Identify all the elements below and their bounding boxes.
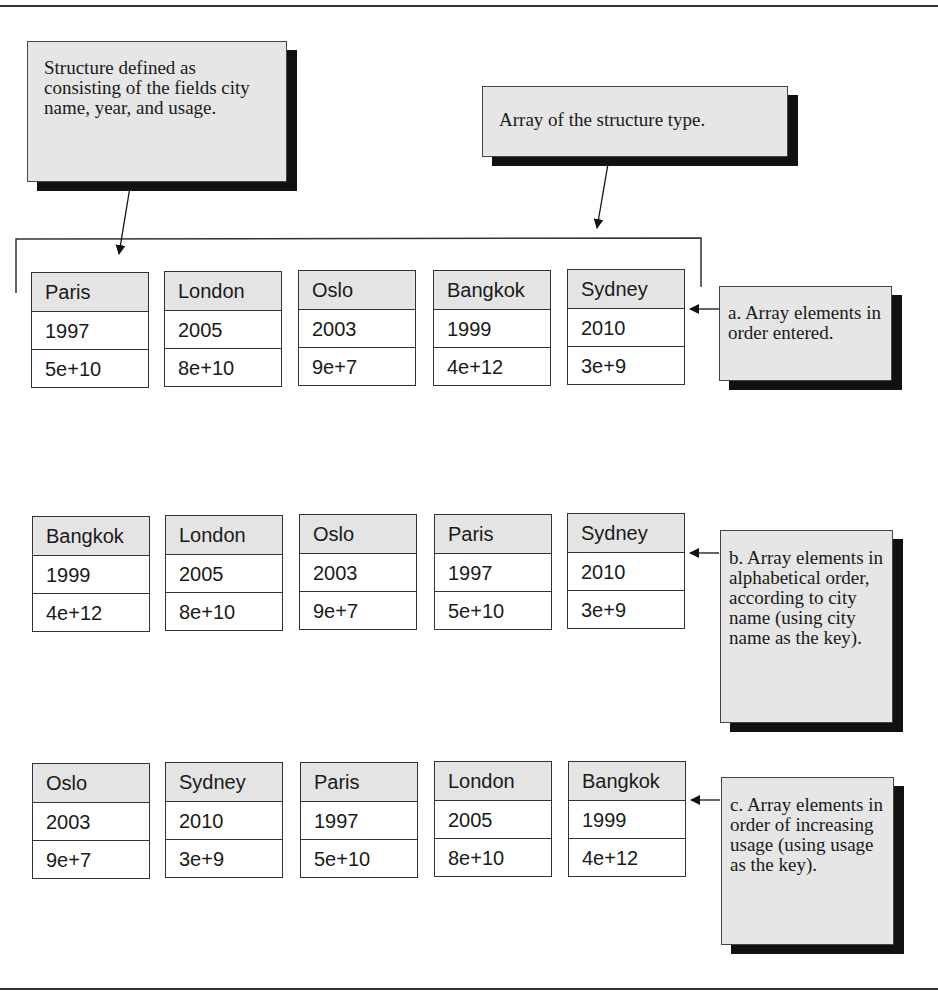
- year: 2005: [435, 800, 551, 838]
- year: 1999: [569, 800, 685, 838]
- year: 2010: [568, 552, 684, 590]
- year: 2010: [166, 801, 282, 839]
- record: Paris 1997 5e+10: [31, 272, 149, 388]
- city-name: Paris: [435, 515, 551, 553]
- usage: 5e+10: [301, 839, 417, 877]
- year: 2010: [568, 308, 684, 346]
- city-name: Bangkok: [569, 762, 685, 800]
- record: Paris 1997 5e+10: [434, 514, 552, 630]
- year: 1997: [435, 553, 551, 591]
- usage: 4e+12: [33, 593, 149, 631]
- record: London 2005 8e+10: [165, 515, 283, 631]
- city-name: Sydney: [166, 763, 282, 801]
- record: Bangkok 1999 4e+12: [568, 761, 686, 877]
- usage: 8e+10: [166, 592, 282, 630]
- record: London 2005 8e+10: [164, 271, 282, 387]
- city-name: Paris: [301, 763, 417, 801]
- usage: 4e+12: [569, 838, 685, 876]
- year: 2005: [165, 310, 281, 348]
- usage: 5e+10: [435, 591, 551, 629]
- year: 1999: [434, 309, 550, 347]
- callout-b: b. Array elements in alphabetical order,…: [720, 530, 893, 723]
- record: Sydney 2010 3e+9: [567, 269, 685, 385]
- record: Oslo 2003 9e+7: [298, 270, 416, 386]
- usage: 5e+10: [32, 349, 148, 387]
- city-name: Sydney: [568, 270, 684, 308]
- usage: 3e+9: [568, 346, 684, 384]
- record: Oslo 2003 9e+7: [299, 514, 417, 630]
- city-name: London: [165, 272, 281, 310]
- usage: 3e+9: [568, 590, 684, 628]
- usage: 4e+12: [434, 347, 550, 385]
- record: London 2005 8e+10: [434, 761, 552, 877]
- structure-callout: Structure defined as consisting of the f…: [27, 41, 287, 182]
- usage: 9e+7: [299, 347, 415, 385]
- array-callout: Array of the structure type.: [482, 86, 788, 157]
- city-name: Paris: [32, 273, 148, 311]
- year: 1999: [33, 555, 149, 593]
- record: Sydney 2010 3e+9: [567, 513, 685, 629]
- city-name: Bangkok: [434, 271, 550, 309]
- year: 2005: [166, 554, 282, 592]
- usage: 8e+10: [165, 348, 281, 386]
- record: Sydney 2010 3e+9: [165, 762, 283, 878]
- city-name: Oslo: [300, 515, 416, 553]
- city-name: London: [166, 516, 282, 554]
- year: 1997: [32, 311, 148, 349]
- city-name: Oslo: [299, 271, 415, 309]
- record: Paris 1997 5e+10: [300, 762, 418, 878]
- usage: 3e+9: [166, 839, 282, 877]
- callout-c: c. Array elements in order of increasing…: [721, 777, 894, 945]
- year: 2003: [299, 309, 415, 347]
- usage: 9e+7: [300, 591, 416, 629]
- record: Bangkok 1999 4e+12: [433, 270, 551, 386]
- record: Bangkok 1999 4e+12: [32, 516, 150, 632]
- year: 2003: [33, 802, 149, 840]
- usage: 8e+10: [435, 838, 551, 876]
- year: 2003: [300, 553, 416, 591]
- callout-a: a. Array elements in order entered.: [719, 286, 892, 381]
- city-name: Oslo: [33, 764, 149, 802]
- usage: 9e+7: [33, 840, 149, 878]
- city-name: London: [435, 762, 551, 800]
- record: Oslo 2003 9e+7: [32, 763, 150, 879]
- city-name: Bangkok: [33, 517, 149, 555]
- year: 1997: [301, 801, 417, 839]
- city-name: Sydney: [568, 514, 684, 552]
